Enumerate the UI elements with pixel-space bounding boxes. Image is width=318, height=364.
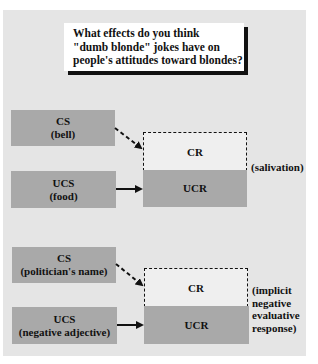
arrows-layer bbox=[0, 0, 318, 364]
dashed-arrow-cs-to-cr-2 bbox=[116, 264, 142, 285]
dashed-arrow-cs-to-cr-1 bbox=[115, 128, 141, 148]
